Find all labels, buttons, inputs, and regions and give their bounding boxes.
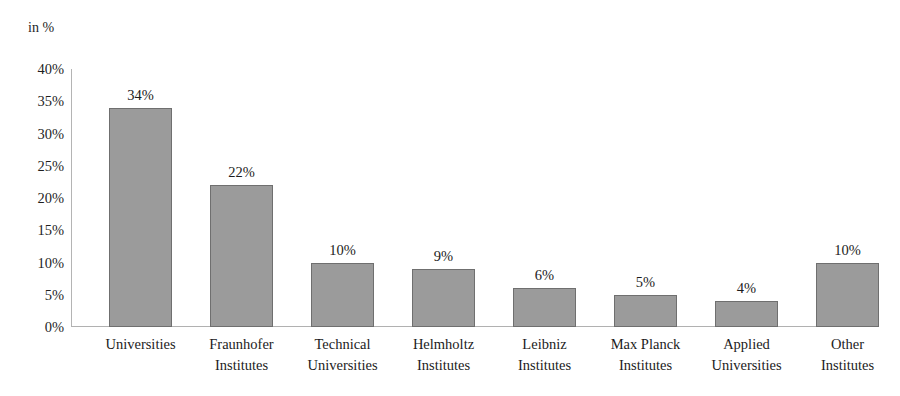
bar-slot: 5% (595, 69, 696, 327)
bar (109, 108, 172, 327)
x-axis-label: LeibnizInstitutes (494, 334, 595, 376)
x-axis-label-line: Universities (292, 355, 393, 376)
bar-slot: 4% (696, 69, 797, 327)
bar-value-label: 10% (292, 242, 393, 258)
x-axis-label-line: Institutes (393, 355, 494, 376)
y-axis-tick-0: 0% (20, 319, 64, 335)
bar (614, 295, 677, 327)
bar (412, 269, 475, 327)
x-axis-label-line: Other (797, 334, 898, 355)
bar-slot: 10% (797, 69, 898, 327)
x-axis-label-line: Universities (696, 355, 797, 376)
x-axis-label-line: Leibniz (494, 334, 595, 355)
x-axis-label-line: Helmholtz (393, 334, 494, 355)
bar-value-label: 6% (494, 267, 595, 283)
x-axis-label: Max PlanckInstitutes (595, 334, 696, 376)
x-axis-label-line: Universities (90, 334, 191, 355)
y-axis-tick-30: 30% (20, 126, 64, 142)
bar-slot: 34% (90, 69, 191, 327)
x-axis-label-line: Technical (292, 334, 393, 355)
bar-value-label: 5% (595, 274, 696, 290)
bar-value-label: 4% (696, 280, 797, 296)
y-axis-tick-25: 25% (20, 158, 64, 174)
bar (311, 263, 374, 328)
bar-chart: in % 40%35%30%25%20%15%10%5%0% 34%22%10%… (0, 0, 900, 396)
y-axis-tick-labels: 40%35%30%25%20%15%10%5%0% (18, 69, 64, 327)
bar-slot: 22% (191, 69, 292, 327)
bar-value-label: 34% (90, 87, 191, 103)
y-axis-tick-10: 10% (20, 255, 64, 271)
x-axis-category-labels: UniversitiesFraunhoferInstitutesTechnica… (71, 334, 871, 390)
bar (210, 185, 273, 327)
x-axis-label: TechnicalUniversities (292, 334, 393, 376)
y-axis-unit-label: in % (28, 19, 54, 37)
bar-value-label: 10% (797, 242, 898, 258)
x-axis-label: FraunhoferInstitutes (191, 334, 292, 376)
x-axis-label: AppliedUniversities (696, 334, 797, 376)
x-axis-label-line: Applied (696, 334, 797, 355)
bar-slot: 9% (393, 69, 494, 327)
bar-value-label: 22% (191, 164, 292, 180)
bar-slot: 6% (494, 69, 595, 327)
x-axis-label-line: Max Planck (595, 334, 696, 355)
plot-area: 34%22%10%9%6%5%4%10% (71, 69, 871, 327)
bar-series: 34%22%10%9%6%5%4%10% (71, 69, 871, 327)
y-axis-tick-20: 20% (20, 190, 64, 206)
x-axis-label-line: Institutes (191, 355, 292, 376)
bar (816, 263, 879, 328)
x-axis-label: HelmholtzInstitutes (393, 334, 494, 376)
x-axis-label-line: Institutes (595, 355, 696, 376)
x-axis-label-line: Institutes (797, 355, 898, 376)
bar-value-label: 9% (393, 248, 494, 264)
x-axis-label-line: Institutes (494, 355, 595, 376)
bar (715, 301, 778, 327)
bar (513, 288, 576, 327)
x-axis-label-line: Fraunhofer (191, 334, 292, 355)
x-axis-label: OtherInstitutes (797, 334, 898, 376)
y-axis-tick-40: 40% (20, 61, 64, 77)
bar-slot: 10% (292, 69, 393, 327)
x-axis-label: Universities (90, 334, 191, 355)
y-axis-tick-15: 15% (20, 222, 64, 238)
y-axis-tick-35: 35% (20, 93, 64, 109)
y-axis-tick-5: 5% (20, 287, 64, 303)
